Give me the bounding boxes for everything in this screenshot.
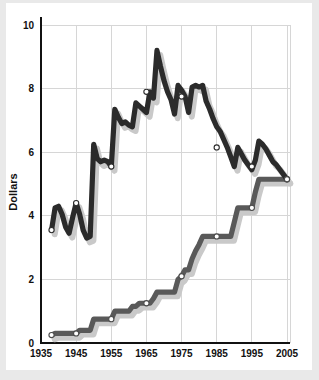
- x-axis-tick-labels: 19351945195519651975198519952005: [30, 348, 299, 359]
- x-tick-1935: 1935: [30, 348, 53, 359]
- y-axis-title: Dollars: [7, 173, 19, 210]
- y-axis-tick-labels: 0246810: [23, 20, 35, 349]
- y-tick-4: 4: [28, 210, 34, 221]
- y-tick-6: 6: [28, 147, 34, 158]
- y-tick-2: 2: [28, 274, 34, 285]
- x-tick-1945: 1945: [65, 348, 88, 359]
- x-tick-1985: 1985: [206, 348, 229, 359]
- y-axis-title-label: Dollars: [7, 173, 19, 210]
- y-tick-0: 0: [28, 338, 34, 349]
- chart-figure: 19351945195519651975198519952005 0246810…: [0, 0, 319, 380]
- y-tick-10: 10: [23, 20, 35, 31]
- x-tick-1955: 1955: [100, 348, 123, 359]
- x-tick-1965: 1965: [135, 348, 158, 359]
- line-chart-plot: 19351945195519651975198519952005 0246810…: [0, 0, 319, 380]
- horizontal-gridlines: [41, 25, 290, 279]
- y-tick-8: 8: [28, 83, 34, 94]
- x-tick-1975: 1975: [170, 348, 193, 359]
- x-tick-1995: 1995: [241, 348, 264, 359]
- x-tick-2005: 2005: [276, 348, 299, 359]
